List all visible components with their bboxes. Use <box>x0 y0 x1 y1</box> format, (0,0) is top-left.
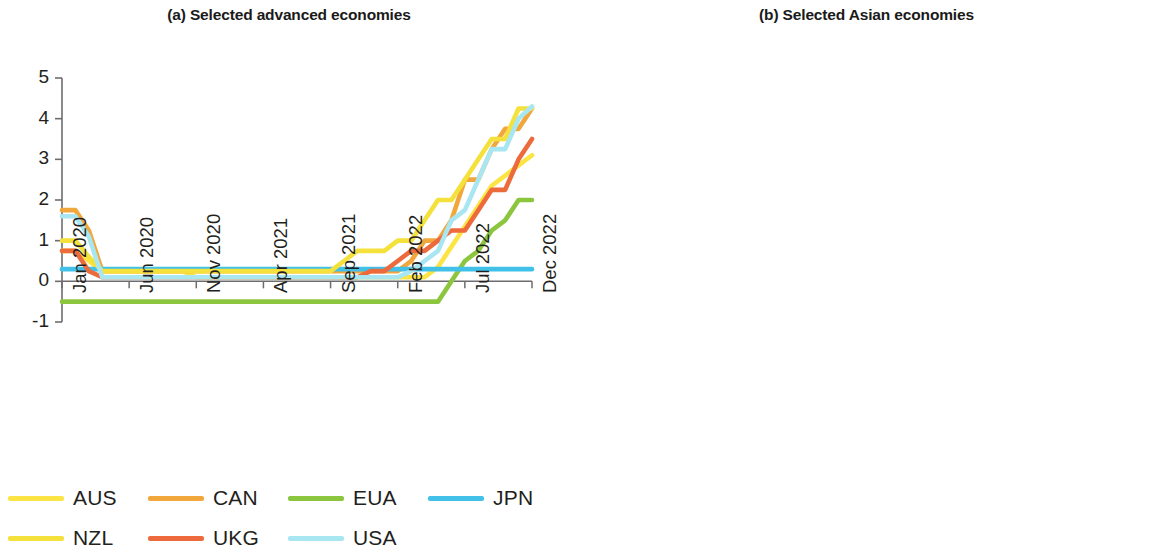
x-tick-label: Jan 2020 <box>69 217 91 293</box>
x-tick-label: Jun 2020 <box>136 217 158 293</box>
legend-item-can[interactable]: CAN <box>148 478 288 518</box>
y-tick-label: 4 <box>38 107 49 128</box>
x-tick-label: Jul 2022 <box>472 223 494 293</box>
legend-label: AUS <box>73 486 117 510</box>
legend-item-ukg[interactable]: UKG <box>148 518 288 558</box>
legend-label: EUA <box>353 486 397 510</box>
panel-advanced-economies: (a) Selected advanced economies -1012345… <box>0 0 578 558</box>
x-tick-label: Dec 2022 <box>539 214 561 293</box>
x-tick-label: Apr 2021 <box>270 218 292 293</box>
legend-label: CAN <box>213 486 258 510</box>
x-tick-label: Feb 2022 <box>405 215 427 293</box>
legend-panel-a: AUSCANEUAJPNNZLUKGUSA <box>8 478 568 558</box>
x-tick-label: Nov 2020 <box>203 214 225 293</box>
y-tick-label: 3 <box>38 147 49 168</box>
legend-item-aus[interactable]: AUS <box>8 478 148 518</box>
y-tick-label: -1 <box>32 310 49 331</box>
legend-label: USA <box>353 526 397 550</box>
legend-label: NZL <box>73 526 113 550</box>
legend-swatch-icon <box>288 496 344 501</box>
legend-item-nzl[interactable]: NZL <box>8 518 148 558</box>
legend-swatch-icon <box>428 496 484 501</box>
legend-label: JPN <box>493 486 533 510</box>
y-tick-label: 0 <box>38 269 49 290</box>
legend-swatch-icon <box>148 496 204 501</box>
legend-swatch-icon <box>288 536 344 541</box>
x-tick-label: Sep 2021 <box>338 214 360 293</box>
legend-swatch-icon <box>8 496 64 501</box>
legend-label: UKG <box>213 526 259 550</box>
legend-item-usa[interactable]: USA <box>288 518 428 558</box>
panel-a-title: (a) Selected advanced economies <box>0 6 578 24</box>
legend-swatch-icon <box>148 536 204 541</box>
legend-item-eua[interactable]: EUA <box>288 478 428 518</box>
panel-b-title: (b) Selected Asian economies <box>578 6 1155 24</box>
chart-a-plot-area: -1012345 <box>48 70 538 330</box>
series-line-can <box>62 109 532 272</box>
figure-root: (a) Selected advanced economies -1012345… <box>0 0 1155 558</box>
panel-asian-economies: (b) Selected Asian economies 0481216 Jan… <box>578 0 1155 558</box>
series-line-ukg <box>62 139 532 277</box>
legend-item-jpn[interactable]: JPN <box>428 478 568 518</box>
y-tick-label: 5 <box>38 66 49 87</box>
series-line-aus <box>62 155 532 277</box>
y-tick-label: 1 <box>38 229 49 250</box>
y-tick-label: 2 <box>38 188 49 209</box>
legend-swatch-icon <box>8 536 64 541</box>
chart-a-svg: -1012345 <box>48 70 538 330</box>
